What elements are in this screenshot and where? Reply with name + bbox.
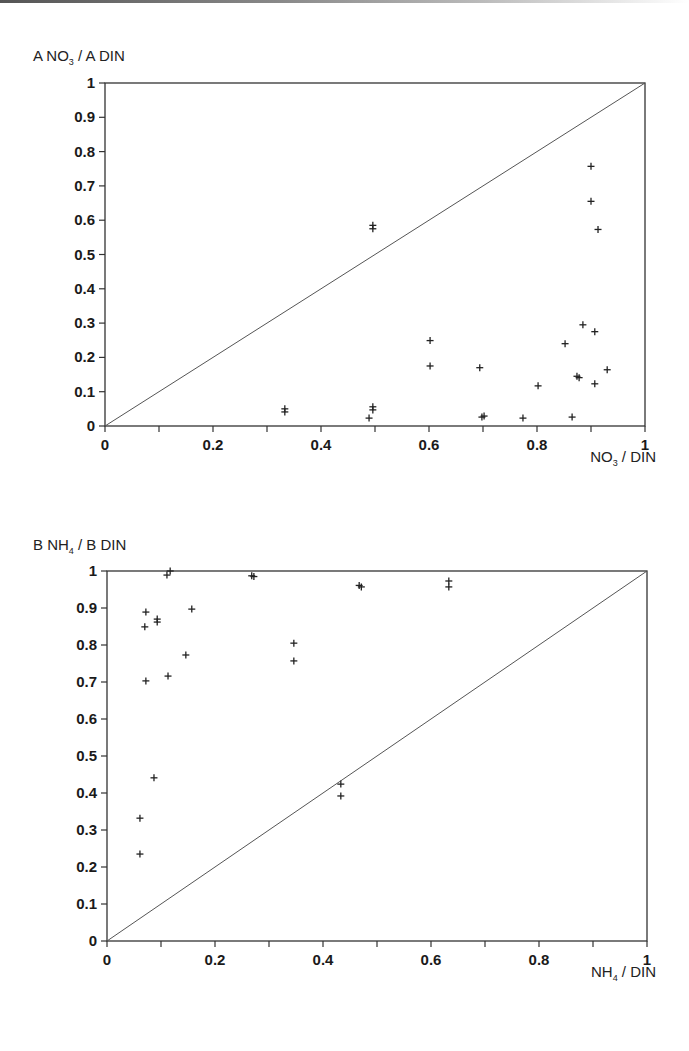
data-point-plus-marker bbox=[142, 677, 149, 684]
data-point-plus-marker bbox=[150, 774, 157, 781]
y-tick-label: 0 bbox=[89, 932, 97, 949]
data-point-plus-marker bbox=[141, 623, 148, 630]
data-point-plus-marker bbox=[142, 609, 149, 616]
y-tick-label: 0.4 bbox=[76, 784, 98, 801]
reference-line bbox=[107, 571, 647, 941]
y-tick-label: 0.8 bbox=[76, 636, 97, 653]
data-point-plus-marker bbox=[167, 568, 174, 575]
x-tick-label: 0.8 bbox=[529, 951, 550, 968]
data-point-plus-marker bbox=[445, 583, 452, 590]
data-point-plus-marker bbox=[188, 606, 195, 613]
data-point-plus-marker bbox=[337, 781, 344, 788]
data-point-plus-marker bbox=[337, 792, 344, 799]
y-tick-label: 0.9 bbox=[76, 599, 97, 616]
data-point-plus-marker bbox=[136, 851, 143, 858]
x-tick-label: 0.6 bbox=[421, 951, 442, 968]
y-tick-label: 0.5 bbox=[76, 747, 97, 764]
data-point-plus-marker bbox=[136, 815, 143, 822]
scatter-panel-b: B NH4 / B DIN NH4 / DIN 00.20.40.60.8100… bbox=[0, 0, 689, 1051]
y-tick-label: 1 bbox=[89, 562, 97, 579]
data-point-plus-marker bbox=[290, 640, 297, 647]
y-tick-label: 0.3 bbox=[76, 821, 97, 838]
y-tick-label: 0.2 bbox=[76, 858, 97, 875]
y-tick-label: 0.1 bbox=[76, 895, 97, 912]
y-tick-label: 0.7 bbox=[76, 673, 97, 690]
x-tick-label: 0 bbox=[103, 951, 111, 968]
x-tick-label: 0.4 bbox=[313, 951, 335, 968]
data-point-plus-marker bbox=[290, 657, 297, 664]
data-point-plus-marker bbox=[163, 572, 170, 579]
data-point-plus-marker bbox=[165, 673, 172, 680]
y-tick-label: 0.6 bbox=[76, 710, 97, 727]
x-tick-label: 0.2 bbox=[205, 951, 226, 968]
x-tick-label: 1 bbox=[643, 951, 651, 968]
data-point-plus-marker bbox=[182, 651, 189, 658]
plot-area: 00.20.40.60.8100.10.20.30.40.50.60.70.80… bbox=[0, 0, 689, 1051]
